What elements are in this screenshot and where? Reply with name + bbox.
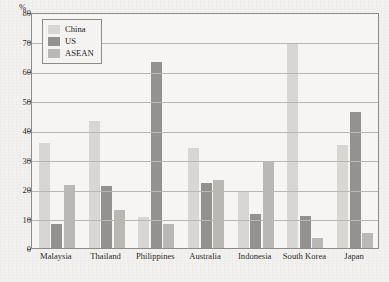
gridline: [32, 132, 378, 133]
x-axis-label-australia: Australia: [189, 251, 221, 261]
bar-australia-us: [201, 183, 212, 248]
bar-philippines-asean: [163, 224, 174, 248]
bar-malaysia-china: [39, 143, 50, 248]
bar-philippines-china: [138, 217, 149, 248]
x-axis-label-philippines: Philippines: [136, 251, 175, 261]
legend-label-china: China: [65, 25, 86, 34]
bar-japan-us: [350, 112, 361, 248]
legend-label-asean: ASEAN: [65, 49, 94, 58]
bar-japan-asean: [362, 233, 373, 248]
gridline: [32, 191, 378, 192]
gridline: [32, 161, 378, 162]
x-axis-label-south-korea: South Korea: [283, 251, 326, 261]
x-axis-label-malaysia: Malaysia: [40, 251, 72, 261]
bar-thailand-china: [89, 121, 100, 248]
x-axis-label-thailand: Thailand: [90, 251, 121, 261]
legend-swatch-asean: [48, 49, 60, 58]
grouped-bar-chart: % 01020304050607080 MalaysiaThailandPhil…: [0, 0, 389, 282]
bar-thailand-us: [101, 186, 112, 248]
x-axis-category-labels: MalaysiaThailandPhilippinesAustraliaIndo…: [31, 251, 379, 271]
bar-malaysia-us: [51, 224, 62, 248]
bar-australia-china: [188, 148, 199, 248]
bar-malaysia-asean: [64, 185, 75, 248]
x-axis-label-japan: Japan: [344, 251, 364, 261]
bar-south-korea-china: [287, 44, 298, 248]
legend-swatch-china: [48, 25, 60, 34]
legend-swatch-us: [48, 37, 60, 46]
y-axis: 01020304050607080: [0, 13, 31, 249]
bar-thailand-asean: [114, 210, 125, 248]
gridline: [32, 220, 378, 221]
gridline: [32, 73, 378, 74]
bar-south-korea-asean: [312, 238, 323, 248]
bar-indonesia-asean: [263, 162, 274, 248]
gridline: [32, 102, 378, 103]
legend-item-us: US: [48, 36, 94, 47]
chart-legend: ChinaUSASEAN: [42, 19, 102, 64]
x-axis-label-indonesia: Indonesia: [238, 251, 271, 261]
legend-label-us: US: [65, 37, 76, 46]
legend-item-china: China: [48, 24, 94, 35]
legend-item-asean: ASEAN: [48, 48, 94, 59]
